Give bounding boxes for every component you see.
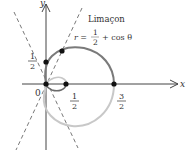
tangent-line-2: [16, 8, 82, 150]
point-x-three-halves: [111, 81, 116, 86]
curve-title: Limaçon: [88, 14, 125, 24]
limacon-inner-lower: [46, 84, 66, 91]
origin-label: 0: [35, 88, 41, 98]
point-x-half: [63, 81, 68, 86]
x-three-halves-num: 3: [119, 92, 124, 101]
x-half-den: 2: [72, 102, 77, 111]
equation-rhs: + cos θ: [102, 33, 132, 42]
y-half-num: 1: [30, 52, 35, 61]
x-axis-label: x: [180, 79, 185, 89]
x-half-num: 1: [72, 92, 77, 101]
y-half-den: 2: [30, 62, 35, 71]
limacon-diagram: y x 0 Limaçon r = 1 2 + cos θ 1 2 1 2 3 …: [0, 0, 194, 153]
point-origin: [43, 81, 48, 86]
point-y-half: [43, 59, 48, 64]
equation-frac-num: 1: [93, 28, 98, 37]
equation-lhs: r =: [74, 33, 87, 42]
x-three-halves-den: 2: [119, 102, 124, 111]
point-upper: [59, 48, 64, 53]
equation-frac-den: 2: [93, 38, 98, 47]
y-axis-label: y: [39, 0, 46, 8]
